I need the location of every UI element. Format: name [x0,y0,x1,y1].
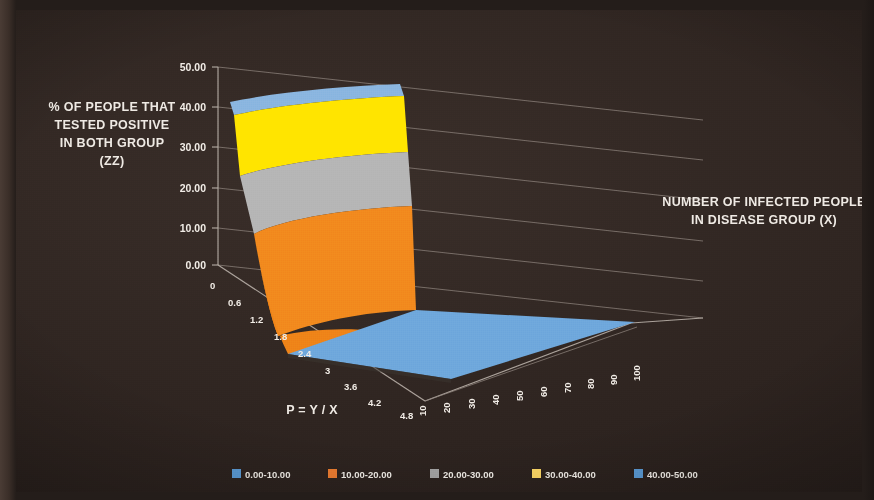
z-tick-5: 50.00 [180,61,206,73]
legend-item-0[interactable]: 0.00-10.00 [232,469,290,480]
legend-label-0: 0.00-10.00 [245,469,290,480]
z-tick-2: 20.00 [180,182,206,194]
y-tick-3: 1.8 [274,331,287,342]
x-tick-7: 80 [585,378,596,389]
z-axis [212,67,218,265]
legend: 0.00-10.00 10.00-20.00 20.00-30.00 30.00… [232,469,698,480]
legend-swatch-3 [532,469,541,478]
legend-label-3: 30.00-40.00 [545,469,596,480]
legend-swatch-1 [328,469,337,478]
z-axis-title-line-2: TESTED POSITIVE [55,118,170,132]
x-tick-6: 70 [562,382,573,393]
surface-band-0-10 [288,310,635,379]
legend-label-4: 40.00-50.00 [647,469,698,480]
z-axis-title: % OF PEOPLE THAT TESTED POSITIVE IN BOTH… [49,100,176,168]
x-tick-8: 90 [608,374,619,385]
legend-label-2: 20.00-30.00 [443,469,494,480]
z-axis-ticks: 0.00 10.00 20.00 30.00 40.00 50.00 [180,61,206,271]
y-tick-5: 3 [325,365,330,376]
z-tick-3: 30.00 [180,141,206,153]
x-axis-title-line-1: NUMBER OF INFECTED PEOPLE [662,195,862,209]
legend-item-2[interactable]: 20.00-30.00 [430,469,494,480]
chart-panel: % OF PEOPLE THAT TESTED POSITIVE IN BOTH… [16,10,862,492]
y-tick-4: 2.4 [298,348,312,359]
y-tick-2: 1.2 [250,314,263,325]
x-tick-1: 20 [441,402,452,413]
x-tick-4: 50 [514,390,525,401]
x-tick-9: 100 [631,365,642,381]
x-tick-5: 60 [538,386,549,397]
surface-mesh [230,84,635,383]
y-tick-8: 4.8 [400,410,413,421]
legend-item-1[interactable]: 10.00-20.00 [328,469,392,480]
legend-label-1: 10.00-20.00 [341,469,392,480]
screenshot-root: % OF PEOPLE THAT TESTED POSITIVE IN BOTH… [0,0,874,500]
y-tick-1: 0.6 [228,297,241,308]
x-tick-2: 30 [466,398,477,409]
legend-swatch-0 [232,469,241,478]
z-tick-1: 10.00 [180,222,206,234]
surface-band-10-20 [254,206,416,336]
surface-chart: % OF PEOPLE THAT TESTED POSITIVE IN BOTH… [16,10,862,492]
legend-swatch-4 [634,469,643,478]
z-tick-0: 0.00 [186,259,207,271]
x-axis-title: NUMBER OF INFECTED PEOPLE IN DISEASE GRO… [662,195,862,227]
x-axis-title-line-2: IN DISEASE GROUP (X) [691,213,837,227]
z-axis-title-line-4: (ZZ) [100,154,125,168]
y-tick-6: 3.6 [344,381,357,392]
z-axis-title-line-1: % OF PEOPLE THAT [49,100,176,114]
y-axis-title: P = Y / X [286,403,338,417]
z-axis-title-line-3: IN BOTH GROUP [60,136,165,150]
legend-item-3[interactable]: 30.00-40.00 [532,469,596,480]
z-tick-4: 40.00 [180,101,206,113]
y-tick-7: 4.2 [368,397,381,408]
legend-item-4[interactable]: 40.00-50.00 [634,469,698,480]
y-tick-0: 0 [210,280,215,291]
legend-swatch-2 [430,469,439,478]
x-tick-0: 10 [417,405,428,416]
x-tick-3: 40 [490,394,501,405]
